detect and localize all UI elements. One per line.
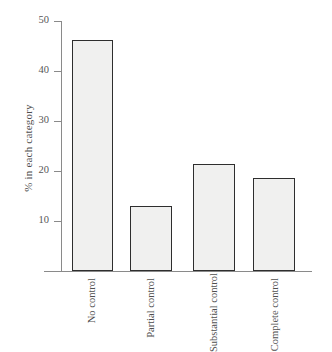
x-category-label-complete-control: Complete control xyxy=(269,278,299,352)
bar-complete-control[interactable] xyxy=(253,178,295,272)
x-category-line2: control xyxy=(269,278,280,308)
x-category-line2: control xyxy=(145,278,156,308)
x-category-label-partial-control: Partial control xyxy=(145,278,175,352)
x-category-line2: control xyxy=(208,273,219,303)
x-category-line1: Substantial xyxy=(208,305,219,352)
bar-no-control[interactable] xyxy=(72,40,113,271)
bar-partial-control[interactable] xyxy=(130,206,172,271)
x-category-line1: No xyxy=(86,310,97,323)
x-category-label-substantial-control: Substantial control xyxy=(208,278,238,352)
bar-substantial-control[interactable] xyxy=(193,164,235,272)
x-category-label-no-control: No control xyxy=(86,278,116,352)
x-category-line2: control xyxy=(86,278,97,308)
x-category-line1: Partial xyxy=(145,310,156,337)
x-category-line1: Complete xyxy=(269,310,280,351)
